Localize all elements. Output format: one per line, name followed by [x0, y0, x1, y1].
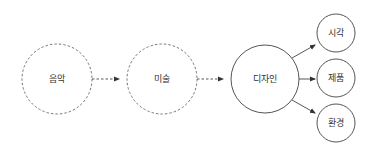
node-product: 제품	[317, 59, 355, 97]
edge-design-to-environment	[292, 100, 315, 113]
design-evolution-diagram: 음악 미술 디자인 시각 제품 환경	[0, 0, 375, 156]
node-music: 음악	[22, 44, 92, 114]
music-label: 음악	[49, 73, 65, 84]
environment-label: 환경	[328, 117, 344, 128]
node-visual: 시각	[317, 14, 355, 52]
edge-design-to-visual	[292, 45, 315, 58]
node-environment: 환경	[317, 104, 355, 142]
design-label: 디자인	[253, 74, 277, 84]
product-label: 제품	[328, 73, 344, 83]
art-label: 미술	[154, 74, 170, 84]
node-art: 미술	[127, 44, 197, 114]
node-design: 디자인	[231, 45, 299, 113]
visual-label: 시각	[328, 27, 344, 38]
